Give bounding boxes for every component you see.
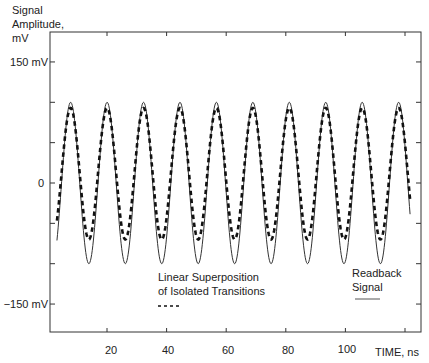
y-tick-label-150: 150 mV: [10, 56, 49, 68]
y-axis-title-line-2: Amplitude,: [12, 18, 64, 30]
x-tick-label-60: 60: [222, 344, 234, 356]
y-tick-label-neg150: −150 mV: [4, 298, 49, 310]
x-tick-label-100: 100: [338, 343, 356, 355]
plot-curves: [57, 102, 410, 263]
legend-label-line-2: Signal: [352, 281, 383, 293]
legend-label-line-1: Readback: [352, 267, 402, 279]
y-axis-title-line-3: mV: [12, 32, 29, 44]
linear-superposition-line: [57, 108, 410, 240]
x-tick-label-40: 40: [162, 344, 174, 356]
chart: Signal Amplitude, mV 150 mV 0 −150 mV 20…: [0, 0, 429, 363]
x-tick-label-80: 80: [282, 344, 294, 356]
legend-label-line-1: Linear Superposition: [158, 271, 259, 283]
legend-label-line-2: of Isolated Transitions: [158, 285, 266, 297]
x-tick-label-20: 20: [105, 344, 117, 356]
y-axis-title-line-1: Signal: [12, 4, 43, 16]
legend-item-linear-superposition: Linear Superposition of Isolated Transit…: [158, 271, 266, 306]
legend-item-readback-signal: Readback Signal: [352, 267, 402, 299]
y-tick-label-0: 0: [38, 177, 44, 189]
x-axis-title: TIME, ns: [375, 346, 420, 358]
